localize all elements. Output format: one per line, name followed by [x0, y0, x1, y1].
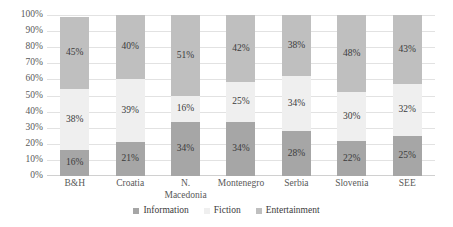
bar-slot: 43%32%25% [380, 15, 435, 176]
bar-segment-entertainment[interactable]: 48% [337, 15, 366, 92]
bar-segment-information[interactable]: 22% [337, 141, 366, 176]
legend-swatch-icon [256, 208, 262, 214]
bar-segment-value-label: 40% [121, 42, 138, 52]
bar-segment-value-label: 34% [232, 144, 249, 154]
bar-segment-entertainment[interactable]: 45% [60, 17, 89, 89]
chart-legend: InformationFictionEntertainment [0, 206, 453, 216]
y-axis-tick-label: 30% [0, 123, 43, 133]
stacked-bar[interactable]: 38%34%28% [282, 15, 311, 176]
bar-segment-value-label: 39% [121, 106, 138, 116]
bar-slot: 45%38%16% [47, 15, 102, 176]
legend-swatch-icon [133, 208, 139, 214]
bar-segment-entertainment[interactable]: 40% [116, 15, 145, 79]
bar-segment-fiction[interactable]: 16% [171, 96, 200, 122]
bar-segment-fiction[interactable]: 32% [393, 84, 422, 136]
bar-segment-value-label: 38% [288, 41, 305, 51]
bar-segment-entertainment[interactable]: 38% [282, 15, 311, 76]
bar-segment-entertainment[interactable]: 51% [171, 15, 200, 96]
stacked-bar[interactable]: 45%38%16% [60, 15, 89, 176]
bar-segment-value-label: 48% [343, 49, 360, 59]
bar-segment-information[interactable]: 34% [171, 122, 200, 176]
legend-swatch-icon [204, 208, 210, 214]
x-axis-category-label: Slovenia [324, 178, 379, 202]
x-axis-category-label: Croatia [102, 178, 157, 202]
x-axis-category-label: Montenegro [213, 178, 268, 202]
stacked-bar[interactable]: 51%16%34% [171, 15, 200, 176]
legend-item[interactable]: Entertainment [256, 206, 320, 216]
bar-segment-value-label: 32% [399, 105, 416, 115]
bar-segment-value-label: 28% [288, 149, 305, 159]
x-axis: B&HCroatiaN. MacedoniaMontenegroSerbiaSl… [47, 178, 435, 202]
x-axis-category-label: Serbia [269, 178, 324, 202]
legend-item[interactable]: Information [133, 206, 188, 216]
y-axis-tick-label: 90% [0, 26, 43, 36]
bar-segment-information[interactable]: 21% [116, 142, 145, 176]
bar-segment-fiction[interactable]: 30% [337, 92, 366, 140]
bar-segment-value-label: 30% [343, 112, 360, 122]
bar-segment-entertainment[interactable]: 43% [393, 15, 422, 84]
bar-slot: 48%30%22% [324, 15, 379, 176]
legend-label: Information [143, 206, 188, 216]
x-axis-category-label: B&H [47, 178, 102, 202]
bar-segment-fiction[interactable]: 38% [60, 89, 89, 150]
bar-segment-value-label: 22% [343, 154, 360, 164]
y-axis-tick-label: 40% [0, 107, 43, 117]
bar-segment-entertainment[interactable]: 42% [226, 15, 255, 82]
legend-label: Entertainment [266, 206, 320, 216]
bar-segment-value-label: 43% [399, 45, 416, 55]
bar-segment-value-label: 42% [232, 44, 249, 54]
y-axis: 100%90%80%70%60%50%40%30%20%10%0% [0, 15, 43, 176]
bar-segment-value-label: 16% [66, 158, 83, 168]
bar-segment-value-label: 51% [177, 51, 194, 61]
y-axis-tick-label: 50% [0, 91, 43, 101]
bar-segment-value-label: 34% [177, 144, 194, 154]
bar-segment-value-label: 34% [288, 99, 305, 109]
legend-item[interactable]: Fiction [204, 206, 241, 216]
bars-container: 45%38%16%40%39%21%51%16%34%42%25%34%38%3… [47, 15, 435, 176]
bar-segment-value-label: 25% [232, 97, 249, 107]
stacked-bar[interactable]: 40%39%21% [116, 15, 145, 176]
bar-segment-information[interactable]: 34% [226, 122, 255, 176]
bar-segment-value-label: 45% [66, 48, 83, 58]
bar-segment-information[interactable]: 16% [60, 150, 89, 176]
stacked-bar[interactable]: 48%30%22% [337, 15, 366, 176]
bar-segment-information[interactable]: 28% [282, 131, 311, 176]
plot-area: 45%38%16%40%39%21%51%16%34%42%25%34%38%3… [47, 15, 435, 176]
y-axis-tick-label: 10% [0, 155, 43, 165]
y-axis-tick-label: 100% [0, 10, 43, 20]
bar-slot: 42%25%34% [213, 15, 268, 176]
bar-slot: 38%34%28% [269, 15, 324, 176]
bar-slot: 51%16%34% [158, 15, 213, 176]
bar-segment-value-label: 38% [66, 115, 83, 125]
bar-segment-fiction[interactable]: 39% [116, 79, 145, 142]
y-axis-tick-label: 70% [0, 59, 43, 69]
x-axis-category-label: SEE [380, 178, 435, 202]
bar-segment-value-label: 16% [177, 104, 194, 114]
legend-label: Fiction [214, 206, 241, 216]
bar-segment-fiction[interactable]: 34% [282, 76, 311, 131]
y-axis-tick-label: 20% [0, 139, 43, 149]
stacked-bar[interactable]: 42%25%34% [226, 15, 255, 176]
bar-segment-value-label: 21% [121, 154, 138, 164]
stacked-bar[interactable]: 43%32%25% [393, 15, 422, 176]
bar-slot: 40%39%21% [102, 15, 157, 176]
y-axis-tick-label: 80% [0, 42, 43, 52]
stacked-bar-chart: 100%90%80%70%60%50%40%30%20%10%0% 45%38%… [0, 0, 453, 227]
bar-segment-value-label: 25% [399, 151, 416, 161]
bar-segment-fiction[interactable]: 25% [226, 82, 255, 122]
y-axis-tick-label: 60% [0, 75, 43, 85]
x-axis-category-label: N. Macedonia [158, 178, 213, 202]
y-axis-tick-label: 0% [0, 171, 43, 181]
bar-segment-information[interactable]: 25% [393, 136, 422, 176]
